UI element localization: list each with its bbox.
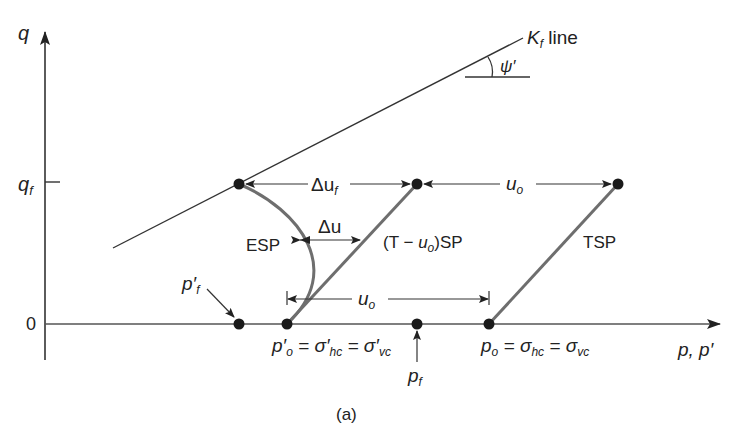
po-prime-label: p′o = σ′hc = σ′vc [271, 335, 391, 359]
angle-arc [488, 57, 493, 77]
t-uo-sp-label: (T − uo)SP [383, 233, 463, 255]
x-axis-label: p, p′ [677, 339, 715, 360]
zero-tick-label: 0 [26, 314, 36, 334]
pf-label: pf [407, 365, 424, 389]
y-axis-label: q [18, 22, 29, 44]
t-uo-sp-line [287, 184, 417, 324]
tsp-label: TSP [583, 233, 616, 252]
point-po-prime [282, 319, 293, 330]
esp-label: ESP [246, 236, 280, 255]
delta-u-label: Δu [318, 216, 341, 237]
kf-line-label: Kf line [527, 27, 578, 51]
po-label: po = σhc = σvc [480, 335, 589, 359]
qf-tick-label: qf [18, 173, 34, 198]
failure-point-tsp [613, 179, 624, 190]
uo-top-label: uo [506, 173, 524, 197]
pf-prime-pointer [207, 289, 234, 317]
point-pf [412, 319, 423, 330]
failure-point-esp [234, 179, 245, 190]
point-po [484, 319, 495, 330]
delta-uf-label: Δuf [311, 174, 339, 198]
figure-caption: (a) [336, 405, 357, 424]
axes [45, 32, 720, 360]
uo-bottom-label: uo [358, 288, 376, 312]
psi-prime-label: ψ′ [500, 57, 516, 76]
tsp-line [489, 184, 618, 324]
failure-point-t-uo-sp [412, 179, 423, 190]
stress-path-diagram: q qf 0 p, p′ Kf line ψ′ ESP TSP (T − uo)… [0, 0, 733, 446]
pf-prime-label: p′f [181, 273, 201, 297]
point-pf-prime [234, 319, 245, 330]
